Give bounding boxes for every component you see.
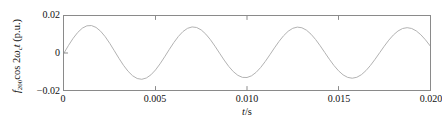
x-axis-ticks: 00.0050.0100.0150.020 xyxy=(63,93,431,107)
y-tick-label: 0 xyxy=(26,48,60,58)
x-tick-label: 0.005 xyxy=(144,93,167,105)
y-axis-ticks: 0.020−0.02 xyxy=(18,0,60,126)
x-tick-label: 0 xyxy=(61,93,66,105)
x-axis-label: t/s xyxy=(63,106,431,117)
y-tick-label: −0.02 xyxy=(26,86,60,96)
plot-area xyxy=(63,15,431,91)
x-tick-label: 0.015 xyxy=(328,93,351,105)
x-tick-label: 0.010 xyxy=(236,93,259,105)
x-axis-label-unit: /s xyxy=(245,106,252,117)
chart-figure: f200cos 2ωct (p.u.) 0.020−0.02 00.0050.0… xyxy=(0,0,442,126)
waveform-svg xyxy=(64,16,430,90)
waveform-line xyxy=(64,26,430,80)
y-tick-label: 0.02 xyxy=(26,10,60,20)
x-tick-label: 0.020 xyxy=(420,93,442,105)
